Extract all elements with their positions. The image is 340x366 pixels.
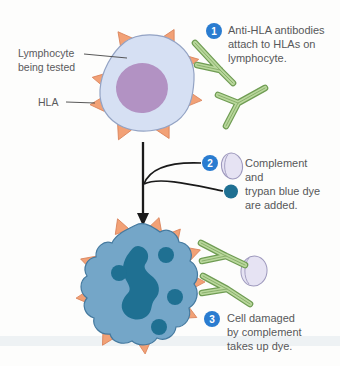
step-2-line2: and — [245, 170, 320, 184]
step-3-text: Cell damaged by complement takes up dye. — [227, 311, 302, 353]
antibody-bound-bottom-icon — [202, 276, 250, 304]
lymphocyte-label-line2: being tested — [18, 60, 75, 74]
step-3-line3: takes up dye. — [227, 339, 302, 353]
step-3-badge: 3 — [204, 311, 220, 327]
hla-label: HLA — [38, 95, 58, 109]
hla-test-figure: Lymphocyte being tested HLA 1 Anti-HLA a… — [0, 0, 340, 366]
hla-leader-line — [66, 102, 95, 103]
dye-spot — [167, 289, 183, 305]
complement-bound-icon — [239, 254, 269, 287]
step-1-line2: attach to HLAs on — [228, 37, 325, 51]
step-3-line2: by complement — [227, 325, 302, 339]
step-2-line1: Complement — [245, 156, 320, 170]
antibody-free-icon — [218, 88, 265, 126]
step-1-line1: Anti-HLA antibodies — [228, 23, 325, 37]
step-2-text: Complement and trypan blue dye are added… — [245, 156, 320, 212]
dye-spot — [151, 319, 167, 335]
dye-spot — [158, 247, 174, 263]
lymphocyte-cell-group — [90, 26, 203, 143]
lymphocyte-label-line1: Lymphocyte — [18, 46, 75, 60]
damaged-cell-group — [75, 215, 205, 354]
step-2-badge: 2 — [202, 155, 218, 171]
step-1-text: Anti-HLA antibodies attach to HLAs on ly… — [228, 23, 325, 65]
lymphocyte-label: Lymphocyte being tested — [18, 46, 75, 74]
complement-icon — [219, 151, 244, 180]
trypan-blue-dye-icon — [224, 185, 238, 199]
merge-line-dye — [144, 181, 223, 191]
step-1-badge: 1 — [206, 23, 222, 39]
step-2-line3: trypan blue dye — [245, 184, 320, 198]
antibody-bound-top-icon — [201, 243, 245, 265]
step-3-line1: Cell damaged — [227, 311, 302, 325]
step-2-line4: are added. — [245, 198, 320, 212]
dye-spot — [111, 265, 127, 281]
step-1-line3: lymphocyte. — [228, 51, 325, 65]
